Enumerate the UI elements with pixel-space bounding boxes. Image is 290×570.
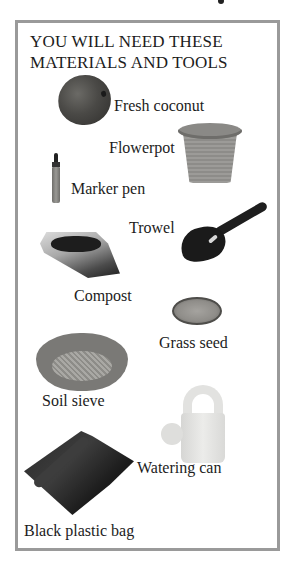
watering-can-spout	[161, 423, 183, 445]
materials-panel: YOU WILL NEED THESE MATERIALS AND TOOLS …	[15, 20, 280, 551]
compost-soil	[51, 236, 101, 252]
panel-title-line1: YOU WILL NEED THESE	[30, 31, 228, 52]
marker-body	[52, 167, 60, 203]
item-label-compost: Compost	[74, 287, 132, 305]
item-label-grass-seed: Grass seed	[159, 334, 228, 352]
item-label-soil-sieve: Soil sieve	[42, 392, 105, 410]
soil-sieve-image	[36, 333, 128, 391]
watering-can-image	[161, 385, 233, 465]
item-label-fresh-coconut: Fresh coconut	[114, 97, 204, 115]
item-label-trowel: Trowel	[129, 219, 175, 237]
coconut-image	[53, 70, 115, 130]
panel-title: YOU WILL NEED THESE MATERIALS AND TOOLS	[30, 31, 228, 73]
flowerpot-body	[183, 133, 237, 183]
panel-title-line2: MATERIALS AND TOOLS	[30, 52, 228, 73]
compost-bag-image	[40, 226, 122, 284]
trowel-image	[176, 213, 276, 271]
flowerpot-image	[178, 123, 242, 183]
flowerpot-rim	[178, 123, 242, 139]
item-label-black-plastic-bag: Black plastic bag	[24, 522, 134, 540]
cropped-heading-fragment	[218, 0, 224, 4]
black-plastic-bag-image	[24, 431, 134, 515]
grass-seed-image	[172, 297, 222, 325]
sieve-mesh	[52, 351, 112, 381]
item-label-flowerpot: Flowerpot	[109, 139, 175, 157]
item-label-marker-pen: Marker pen	[71, 180, 145, 198]
watering-can-body	[181, 413, 225, 463]
marker-pen-image	[51, 153, 61, 203]
item-label-watering-can: Watering can	[137, 459, 221, 477]
